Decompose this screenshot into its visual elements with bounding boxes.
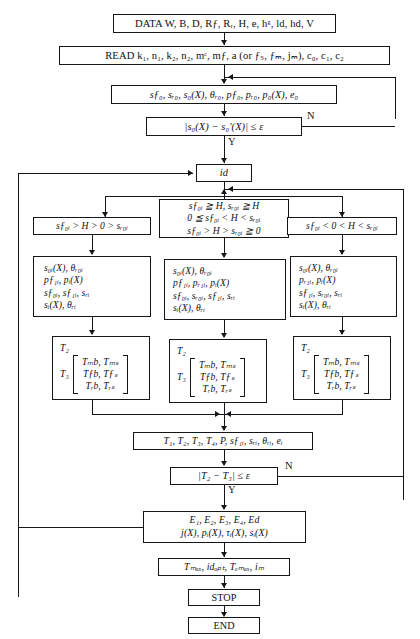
node-convergence-check-1: |s₀(X) − s₀′(X)| ≤ ε [146,117,302,136]
node-end: END [188,617,260,634]
arrowhead-check2-to-results [221,505,227,510]
feedback-n1-vertical [395,77,396,119]
arrowhead-init-to-check1 [221,111,227,116]
node-torque-middle-t2: T₂ [177,345,186,357]
node-end-text: END [213,619,234,632]
arrowhead-feedback-up-into-split [221,189,227,194]
node-loop-index: id [196,164,252,182]
arrowhead-proc-mid-to-t [221,333,227,338]
arrowhead-feedback-n1 [228,74,233,80]
outer-loop-left-rail [18,173,19,597]
outer-loop-bottom-rail [18,527,143,528]
node-torque-left-t3-row: T₃ Tₘb, Tₘₛ Tƒb, Tƒₛ Tᵣb, Tᵣₛ [60,355,128,394]
feedback-right-rail [403,189,404,500]
matrix-row-3: Tᵣb, Tᵣₛ [82,380,119,392]
feedback-n1-horizontal [224,77,396,78]
arrowhead-merge-from-right [226,411,231,417]
node-condition-right: sƒ₀ᵢ < 0 < H < sᵣ₀ᵢ [287,217,397,235]
arrowhead-proc-right-to-t [339,330,345,335]
matrix-bracket-right [364,355,369,394]
branch-label-y1: Y [228,136,236,147]
node-data: DATA W, B, D, Rƒ, Rᵣ, H, e, hᵍ, ld, hd, … [113,14,336,33]
node-torque-middle-t3-row: T₃ Tₘb, Tₘₛ Tƒb, Tƒₛ Tᵣb, Tᵣₛ [177,358,245,397]
arrowhead-feedback-right-rail [228,186,233,192]
arrowhead-cond-left-to-proc [89,250,95,255]
matrix-row-3: Tᵣb, Tᵣₛ [199,383,236,395]
node-process-right: s₀ᵢ(X), θᵣ₀ᵢ pᵣ₁ᵢ, pᵢ(X) sƒ₁ᵢ, sᵣ₀ᵢ, sᵣᵢ… [290,256,397,317]
node-process-right-line-3: sƒ₁ᵢ, sᵣ₀ᵢ, sᵣᵢ [299,287,342,299]
matrix-bracket-left [73,355,78,394]
node-torque-right-t3-row: T₃ Tₘb, Tₘₛ Tƒb, Tƒₛ Tᵣb, Tᵣₛ [301,355,369,394]
node-process-left-line-3: sƒ₀ᵢ, sƒ₁ᵢ, sᵣᵢ [44,287,89,299]
node-initial-values-text: sƒ₀, sᵣ₀, s₀(X), θᵣ₀, pƒ₀, pᵣ₀, p₀(X), e… [150,88,299,101]
node-process-left-line-4: sᵢ(X), θᵣᵢ [44,299,76,311]
node-condition-right-text: sƒ₀ᵢ < 0 < H < sᵣ₀ᵢ [306,220,378,232]
node-process-middle-line-3: sƒ₀ᵢ, sᵣ₀ᵢ, sƒ₁ᵢ, sᵣᵢ [173,290,235,302]
node-process-middle-line-4: sᵢ(X), θᵣᵢ [173,302,205,314]
merge-left-drop [92,400,93,415]
node-maxima-text: Tₘₐₓ, idₒₚₜ, Tₑₘₐₓ, iₘ [184,561,264,574]
node-process-left: s₀ᵢ(X), θᵣ₀ᵢ pƒ₁ᵢ, pᵢ(X) sƒ₀ᵢ, sƒ₁ᵢ, sᵣᵢ… [33,256,151,317]
matrix-row-2: Tƒb, Tƒₛ [82,368,119,380]
node-process-left-line-1: s₀ᵢ(X), θᵣ₀ᵢ [44,262,83,274]
node-read: READ k₁, n₁, k₂, n₂, mᶜ, mƒ, a (or ƒₛ, ƒ… [59,46,390,65]
node-process-right-line-4: sᵢ(X), θᵣᵢ [299,299,331,311]
arrowhead-cond-mid-to-proc [221,253,227,258]
node-torque-right-t2: T₂ [301,342,310,354]
branch-label-n2: N [285,460,293,471]
node-condition-middle-line-3: sƒ₀ᵢ > H > sᵣ₀ᵢ ≧ 0 [187,225,260,237]
matrix-bracket-left [190,358,195,397]
outer-loop-left-rail-top [18,173,193,174]
matrix-row-1: Tₘb, Tₘₛ [199,359,236,371]
node-condition-left: sƒ₀ᵢ > H > 0 > sᵣ₀ᵢ [33,217,151,235]
node-condition-middle-line-2: 0 ≦ sƒ₀ᵢ < H < sᵣ₀ᵢ [187,212,260,224]
matrix-row-1: Tₘb, Tₘₛ [323,356,360,368]
node-collected-results-text: T₁, T₂, T₃, T₄, P, sƒ₁ᵢ, sᵣᵢ, θᵣᵢ, eᵢ [163,435,282,448]
matrix-row-1: Tₘb, Tₘₛ [82,356,119,368]
node-process-middle-line-2: pƒ₁ᵢ, pᵣ₁ᵢ, pᵢ(X) [173,277,229,289]
arrowhead-results-to-maxima [221,552,227,557]
node-condition-middle: sƒ₀ᵢ ≧ H, sᵣ₀ᵢ ≧ H 0 ≦ sƒ₀ᵢ < H < sᵣ₀ᵢ s… [159,199,289,238]
flowchart-canvas: DATA W, B, D, Rƒ, Rᵣ, H, e, hᵍ, ld, hd, … [0,0,420,639]
node-convergence-check-1-text: |s₀(X) − s₀′(X)| ≤ ε [184,120,263,133]
node-process-right-line-2: pᵣ₁ᵢ, pᵢ(X) [299,274,335,286]
arrowhead-proc-left-to-t [89,330,95,335]
arrowhead-check1-to-loop [221,158,227,163]
arrowhead-maxima-to-stop [221,583,227,588]
node-maxima: Tₘₐₓ, idₒₚₜ, Tₑₘₐₓ, iₘ [158,558,290,576]
node-torque-middle-t3: T₃ [177,371,186,383]
node-torque-right-t3: T₃ [301,368,310,380]
node-torque-left: T₂ T₃ Tₘb, Tₘₛ Tƒb, Tƒₛ Tᵣb, Tᵣₛ [52,336,150,400]
node-torque-left-matrix: Tₘb, Tₘₛ Tƒb, Tƒₛ Tᵣb, Tᵣₛ [73,355,128,394]
arrowhead-outer-loop-into-loop-index [188,170,193,176]
matrix-row-3: Tᵣb, Tᵣₛ [323,380,360,392]
node-energy-results: E₁, E₂, E₃, E₄, Ed j(X), pᵢ(X), τᵢ(X), s… [143,511,306,543]
node-torque-left-t2: T₂ [60,342,69,354]
merge-right-drop [342,400,343,415]
node-stop: STOP [188,589,260,606]
connector-check2-n-branch [278,476,403,477]
node-torque-right: T₂ T₃ Tₘb, Tₘₛ Tƒb, Tƒₛ Tᵣb, Tᵣₛ [293,336,391,400]
node-process-left-line-2: pƒ₁ᵢ, pᵢ(X) [44,274,83,286]
node-torque-middle-matrix: Tₘb, Tₘₛ Tƒb, Tƒₛ Tᵣb, Tᵣₛ [190,358,245,397]
node-energy-results-line-2: j(X), pᵢ(X), τᵢ(X), sᵢ(X) [181,527,268,540]
arrowhead-merge-from-left [215,411,220,417]
branch-label-y2: Y [228,484,236,495]
node-data-text: DATA W, B, D, Rƒ, Rᵣ, H, e, hᵍ, ld, hd, … [135,17,314,31]
matrix-bracket-left [314,355,319,394]
node-convergence-check-2-text: |T₂ − T₃| ≤ ε [198,469,250,482]
node-torque-left-t3: T₃ [60,368,69,380]
matrix-bracket-right [240,358,245,397]
arrowhead-collect-to-check2 [221,461,227,466]
node-process-right-line-1: s₀ᵢ(X), θᵣ₀ᵢ [299,262,338,274]
node-process-middle: s₀ᵢ(X), θᵣ₀ᵢ pƒ₁ᵢ, pᵣ₁ᵢ, pᵢ(X) sƒ₀ᵢ, sᵣ₀… [164,259,286,320]
connector-check1-n-branch [302,126,395,127]
node-convergence-check-2: |T₂ − T₃| ≤ ε [170,467,278,485]
node-condition-middle-line-1: sƒ₀ᵢ ≧ H, sᵣ₀ᵢ ≧ H [189,200,259,212]
matrix-row-2: Tƒb, Tƒₛ [323,368,360,380]
node-energy-results-line-1: E₁, E₂, E₃, E₄, Ed [190,514,260,527]
node-stop-text: STOP [211,591,236,604]
feedback-right-rail-top [224,189,404,190]
arrowhead-cond-right-to-proc [339,250,345,255]
node-condition-left-text: sƒ₀ᵢ > H > 0 > sᵣ₀ᵢ [56,220,128,232]
